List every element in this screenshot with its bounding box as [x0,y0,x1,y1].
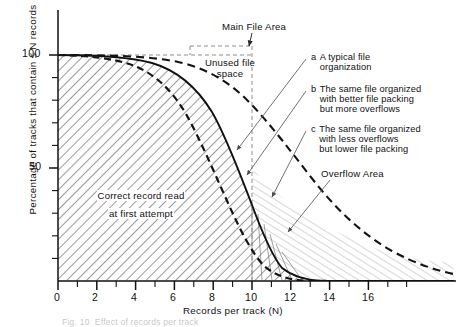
x-tick-label-6: 6 [170,291,176,303]
legend-c-line1: The same file organized [319,124,421,134]
annotation-correct-record-read: Correct record read at first attempt [76,185,206,221]
legend-a-line2: organization [320,62,372,72]
legend-c-line2: with less overflows [319,134,421,144]
y-axis-ticks [49,55,58,258]
x-tick-label-16: 16 [362,291,374,303]
y-axis-title: Percentage of tracks that contain ≤ N re… [27,0,38,226]
legend-item-a[interactable]: a A typical file organization [311,52,372,72]
x-tick-label-8: 8 [209,291,215,303]
figure-caption: Fig. 10 Effect of records per track [62,317,198,327]
correct-read-line2: at first attempt [108,208,174,219]
legend-key-a: a [311,52,316,62]
unused-file-space-line2: space [196,68,264,79]
legend-c-line3: but lower file packing [319,144,421,154]
legend-b-line2: with better file packing [320,94,422,104]
unused-file-space-line1: Unused file [196,57,264,68]
x-tick-label-4: 4 [131,291,137,303]
annotation-main-file-area: Main File Area [222,21,286,32]
legend-item-c[interactable]: c The same file organized with less over… [311,124,421,154]
x-tick-label-14: 14 [323,291,335,303]
x-tick-label-0: 0 [54,291,60,303]
legend-key-c: c [311,124,316,134]
x-tick-label-10: 10 [245,291,257,303]
overflow-area-region [252,168,454,281]
correct-read-line1: Correct record read [97,190,186,201]
legend-a-line1: A typical file [320,52,372,62]
legend-item-b[interactable]: b The same file organized with better fi… [311,84,421,114]
x-tick-label-2: 2 [92,291,98,303]
x-tick-label-12: 12 [284,291,296,303]
x-axis-title: Records per track (N) [183,305,283,317]
legend-b-line3: but more overflows [320,104,422,114]
x-axis-ticks [58,281,407,290]
legend-key-b: b [311,84,316,94]
annotation-unused-file-space: Unused file space [196,57,264,79]
legend-b-line1: The same file organized [320,84,422,94]
annotation-overflow-area: Overflow Area [320,168,385,179]
